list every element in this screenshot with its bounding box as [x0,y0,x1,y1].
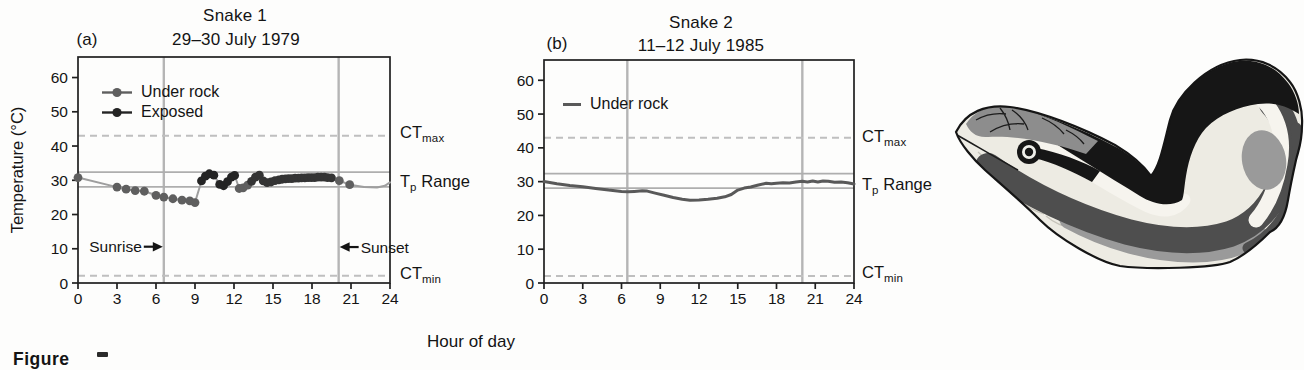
data-point-under_rock [178,196,187,205]
chart-b-title-line2: 11–12 July 1985 [638,36,765,56]
right-arrowhead-icon [153,242,163,252]
y-tick-label: 20 [517,207,535,224]
data-point-under_rock [191,198,200,207]
y-tick-label: 10 [517,241,535,258]
x-tick-label: 6 [152,290,161,307]
y-tick-label: 30 [517,173,535,190]
y-axis-label: Temperature (°C) [8,107,27,234]
x-tick-label: 24 [845,290,863,307]
y-tick-label: 40 [517,139,535,156]
sunrise-annotation: Sunrise [89,238,142,255]
garter-snake-illustration [948,48,1304,298]
data-point-under_rock [169,194,178,203]
legend-a-under-rock: Under rock [101,83,219,101]
y-tick-label: 20 [51,206,69,223]
x-tick-label: 21 [342,290,359,307]
y-tick-label: 0 [525,275,534,292]
data-point-exposed [230,171,239,180]
temperature-charts-canvas: 036912151821240102030405060SunriseSunset… [0,0,945,358]
x-tick-label: 12 [225,290,242,307]
data-point-under_rock [122,185,131,194]
under-rock-line-icon [562,99,582,110]
data-point-under_rock [159,193,168,202]
panel-b-label: (b) [547,34,568,54]
data-point-exposed_dark [327,173,336,182]
ct-max-label-a: CTmax [400,123,444,144]
chart-a-title-line1: Snake 1 [203,6,267,26]
ct-min-label-a: CTmin [400,264,441,285]
panel-a-label: (a) [77,30,98,50]
caption-mark-fragment [97,352,108,357]
y-tick-label: 10 [51,240,69,257]
data-point-exposed [209,171,218,180]
x-tick-label: 18 [303,290,320,307]
y-tick-label: 50 [517,106,535,123]
y-tick-label: 50 [51,103,69,120]
chart-a-title-line2: 29–30 July 1979 [172,30,300,50]
x-tick-label: 24 [381,290,399,307]
sunset-annotation: Sunset [361,239,410,256]
x-tick-label: 0 [540,290,549,307]
x-tick-label: 18 [768,290,785,307]
legend-a-exposed: Exposed [101,103,203,121]
y-tick-label: 0 [59,275,68,292]
data-point-under_rock [140,187,149,196]
y-tick-label: 60 [517,72,535,89]
x-tick-label: 6 [617,290,626,307]
data-point-under_rock [345,180,354,189]
x-tick-label: 21 [807,290,824,307]
tp-range-label-b: Tp Range [862,175,932,196]
legend-a-exposed-label: Exposed [141,103,203,121]
legend-b-under-rock: Under rock [562,95,668,113]
data-point-under_rock [335,176,344,185]
left-arrowhead-icon [340,242,350,252]
data-point-under_rock [74,173,83,182]
legend-a-under-rock-label: Under rock [141,83,219,101]
temperature-line [544,181,854,200]
y-tick-label: 60 [51,69,69,86]
under-rock-marker-icon [101,87,133,98]
x-axis-label: Hour of day [427,332,515,352]
snake-eye-pupil [1025,148,1033,156]
snake-body [956,60,1302,268]
x-tick-label: 15 [729,290,746,307]
ct-min-label-b: CTmin [862,263,903,284]
tp-range-label-a: Tp Range [400,172,470,193]
plot-border [544,60,854,283]
x-tick-label: 9 [656,290,665,307]
data-point-under_rock [152,191,161,200]
y-tick-label: 30 [51,172,69,189]
x-tick-label: 3 [113,290,122,307]
ct-max-label-b: CTmax [862,127,906,148]
legend-b-under-rock-label: Under rock [590,95,668,113]
y-tick-label: 40 [51,138,69,155]
x-tick-label: 15 [264,290,281,307]
caption-text-fragment: Figure [13,349,69,370]
x-tick-label: 9 [191,290,200,307]
x-tick-label: 3 [578,290,587,307]
chart-b-title-line1: Snake 2 [669,13,733,33]
exposed-marker-icon [101,107,133,118]
x-tick-label: 0 [74,290,83,307]
x-tick-label: 12 [690,290,707,307]
data-point-under_rock [131,186,140,195]
data-point-under_rock [113,183,122,192]
